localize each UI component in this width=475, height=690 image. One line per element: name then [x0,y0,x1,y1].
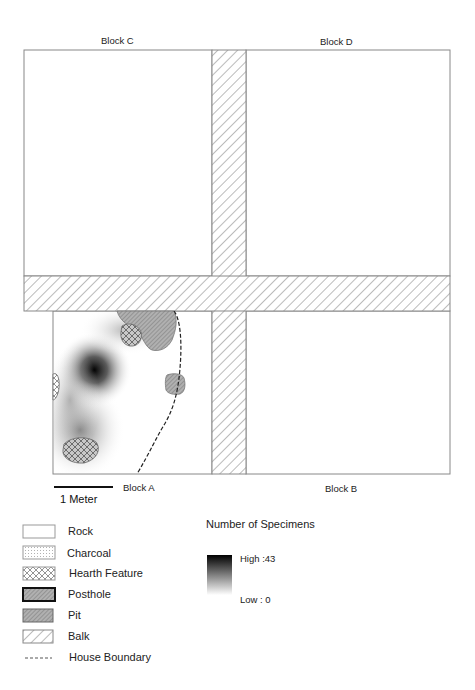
legend-swatch-charcoal [23,546,55,559]
legend-swatch-posthole [23,588,55,601]
density-legend-title: Number of Specimens [206,518,315,530]
density-legend-high: High :43 [240,553,275,564]
block-b-area [246,311,450,474]
hearth-feature-upper [121,324,142,346]
density-ramp [207,555,232,595]
block-c-area [24,50,212,276]
legend-label-rock: Rock [68,525,93,537]
balk-horizontal [24,276,450,311]
legend-label-posthole: Posthole [68,588,111,600]
label-block-a: Block A [123,482,155,493]
label-block-d: Block D [320,36,353,47]
legend-swatch-rock [23,525,55,538]
legend-label-house-boundary: House Boundary [69,651,151,663]
legend-label-balk: Balk [68,630,89,642]
balk-vertical [212,50,246,474]
excavation-map [0,0,475,690]
scale-bar-label: 1 Meter [60,493,97,505]
label-block-c: Block C [101,35,134,46]
legend-label-pit: Pit [68,609,81,621]
label-block-b: Block B [325,483,357,494]
legend-label-charcoal: Charcoal [67,547,111,559]
block-d-area [246,50,450,276]
legend-swatch-pit [23,609,53,622]
legend-swatch-balk [23,630,53,643]
legend-label-hearth-feature: Hearth Feature [69,567,143,579]
pit-feature-small [165,374,185,395]
legend-swatch-hearth [23,567,55,580]
density-legend-low: Low : 0 [240,594,271,605]
